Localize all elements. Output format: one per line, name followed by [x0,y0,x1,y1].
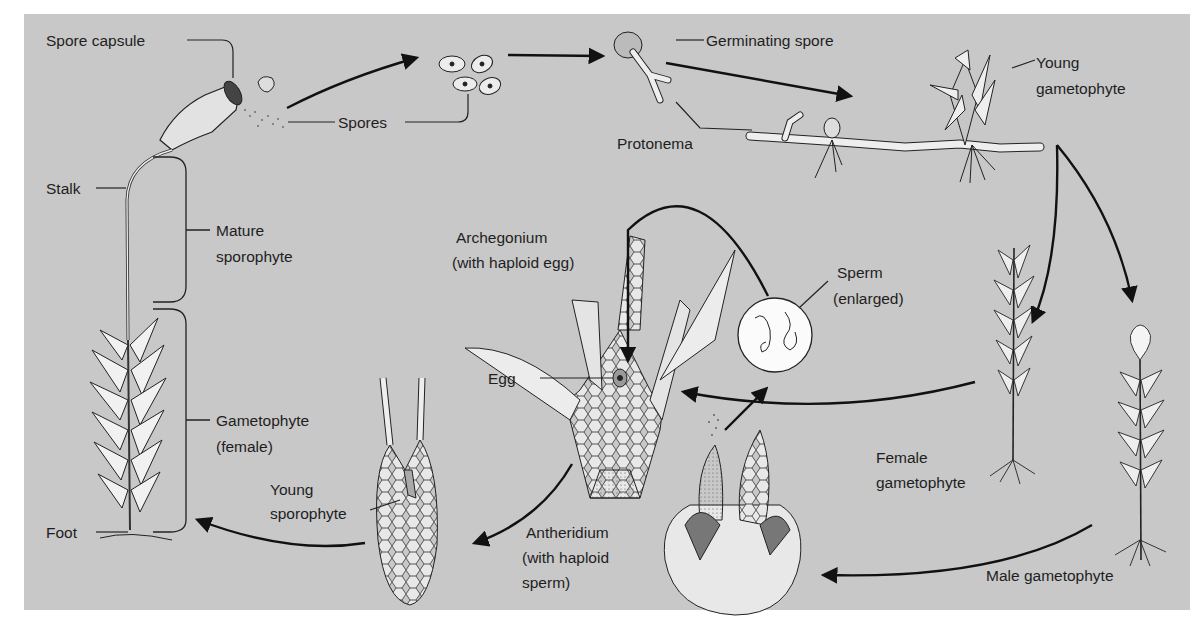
label-stalk: Stalk [46,179,80,198]
protonema-drawing [750,115,1040,183]
female-gametophyte-drawing [990,245,1035,484]
arrow-female-to-archegonium [684,382,975,404]
label-female-gametophyte-line1: Female [876,448,928,467]
label-mature-sporophyte-line2: sporophyte [216,247,293,266]
label-female-gametophyte-line2: gametophyte [876,473,966,492]
antheridium-drawing [664,430,801,615]
label-sperm-line2: (enlarged) [833,289,904,308]
arrow-young-to-female [1033,145,1057,321]
arrow-spores-to-germinating [508,55,602,56]
label-spores: Spores [338,113,387,132]
arrow-young-sporophyte-to-mature [198,520,365,546]
arrow-antheridium-to-sperm [725,389,766,430]
label-gametophyte-female-line2: (female) [216,437,273,456]
label-antheridium-line3: sperm) [522,573,570,592]
mature-sporophyte-bracket [153,157,210,302]
label-gametophyte-female-line1: Gametophyte [216,411,309,430]
label-archegonium-line1: Archegonium [456,228,547,247]
label-young-gametophyte-line2: gametophyte [1036,79,1126,98]
label-young-gametophyte-line1: Young [1036,53,1079,72]
spore-capsule-drawing [160,77,284,150]
stalk-drawing [127,150,172,340]
germinating-spore-drawing [614,32,668,100]
archegonium-drawing [465,236,735,498]
female-gametophyte-with-sporophyte-drawing [90,318,172,540]
male-gametophyte-drawing [1115,325,1166,566]
arrow-capsule-to-spores [287,58,416,108]
label-young-sporophyte-line2: sporophyte [270,504,347,523]
label-foot: Foot [46,523,77,542]
young-gametophyte-drawing [930,50,995,145]
label-sperm-line1: Sperm [837,263,883,282]
spores-drawing [439,52,503,97]
gametophyte-female-bracket [153,309,210,532]
label-antheridium-line2: (with haploid [522,548,609,567]
label-archegonium-line2: (with haploid egg) [452,253,574,272]
label-egg: Egg [488,369,516,388]
young-sporophyte-drawing [377,378,438,605]
label-young-sporophyte-line1: Young [270,480,313,499]
arrow-young-to-male [1057,145,1132,300]
label-germinating-spore: Germinating spore [706,31,834,50]
label-male-gametophyte: Male gametophyte [986,566,1114,585]
arrow-germinating-to-young-gametophyte [666,63,850,96]
label-mature-sporophyte-line1: Mature [216,221,264,240]
label-protonema: Protonema [617,134,693,153]
moss-life-cycle-artwork [0,0,1203,642]
label-spore-capsule: Spore capsule [46,31,145,50]
sperm-enlarged-drawing [738,298,812,372]
label-antheridium-line1: Antheridium [526,523,609,542]
